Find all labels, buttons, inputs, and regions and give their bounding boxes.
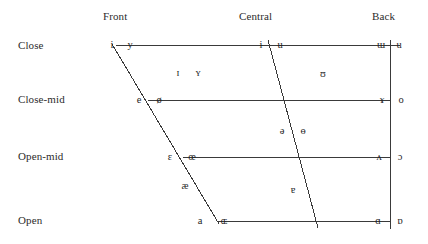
column-header-back: Back bbox=[372, 11, 395, 22]
vowel-open-mid-front-unrounded: ɛ bbox=[168, 152, 172, 163]
vowel-close-back-unrounded: ɯ bbox=[377, 40, 385, 51]
vowel-open-front-unrounded: a bbox=[198, 216, 203, 227]
central-edge bbox=[268, 40, 318, 228]
row-label-open-mid: Open-mid bbox=[18, 151, 63, 162]
vowel-close-central-rounded: ʉ bbox=[277, 40, 282, 51]
front-edge bbox=[112, 44, 219, 224]
vowel-close-central-unrounded: ɨ bbox=[260, 40, 263, 51]
row-label-open: Open bbox=[18, 215, 42, 226]
vowel-near-open-near-front-unrounded: æ bbox=[181, 181, 188, 192]
vowel-open-back-rounded: ɒ bbox=[397, 216, 403, 227]
close-line bbox=[112, 45, 400, 46]
vowel-open-mid-back-unrounded: ʌ bbox=[376, 152, 381, 163]
vowel-open-back-unrounded: ɑ bbox=[375, 216, 381, 227]
vowel-trapezoid-grid bbox=[0, 0, 428, 244]
column-header-front: Front bbox=[103, 11, 127, 22]
vowel-close-back-rounded: u bbox=[396, 40, 401, 51]
vowel-close-mid-back-rounded: o bbox=[398, 95, 403, 106]
vowel-close-mid-front-unrounded: e bbox=[137, 95, 142, 106]
vowel-close-front-rounded: y bbox=[127, 40, 132, 51]
vowel-close-mid-front-rounded: ø bbox=[156, 95, 161, 106]
column-header-central: Central bbox=[239, 11, 272, 22]
vowel-near-close-near-front-unrounded: ɪ bbox=[177, 68, 180, 79]
vowel-near-close-near-back-rounded: ʊ bbox=[320, 69, 326, 80]
vowel-mid-central-rounded: ɵ bbox=[300, 126, 305, 137]
vowel-open-mid-back-rounded: ɔ bbox=[398, 152, 403, 163]
vowel-close-front-unrounded: i bbox=[111, 40, 114, 51]
vowel-chart: FrontCentralBack CloseClose-midOpen-midO… bbox=[0, 0, 428, 244]
row-label-close-mid: Close-mid bbox=[18, 94, 65, 105]
vowel-mid-central-unrounded: ə bbox=[280, 126, 285, 137]
vowel-near-close-near-front-rounded: ʏ bbox=[195, 68, 200, 79]
vowel-near-open-central-unrounded: ɐ bbox=[291, 185, 296, 196]
vowel-open-mid-front-rounded: œ bbox=[188, 152, 196, 163]
row-label-close: Close bbox=[18, 40, 44, 51]
vowel-close-mid-back-unrounded: ɤ bbox=[380, 95, 385, 106]
vowel-open-front-rounded: ɶ bbox=[221, 216, 228, 227]
